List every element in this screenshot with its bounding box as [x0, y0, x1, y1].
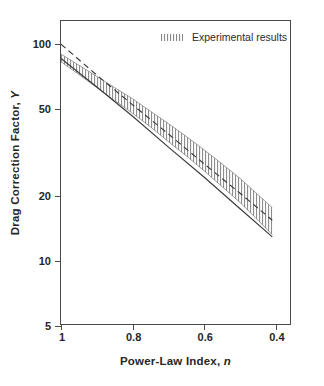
legend-swatch-hatched-icon [161, 34, 183, 41]
legend: Experimental results [161, 31, 287, 43]
y-tick-100: 100 [55, 44, 61, 45]
theory-solid-line [61, 58, 272, 236]
x-axis-title: Power-Law Index, n [60, 355, 291, 367]
x-tick-0.4: 0.4 [276, 324, 277, 330]
y-axis-title-symbol: Y [9, 90, 21, 98]
y-tick-label-20: 20 [39, 190, 51, 202]
y-tick-10: 10 [55, 261, 61, 262]
plot-canvas [61, 21, 292, 326]
x-tick-label-1: 1 [59, 331, 65, 343]
plot-area: Experimental results 1005020105 10.80.60… [60, 20, 291, 325]
y-tick-label-5: 5 [45, 320, 51, 332]
y-tick-20: 20 [55, 196, 61, 197]
x-tick-label-0.8: 0.8 [126, 331, 141, 343]
x-tick-label-0.4: 0.4 [269, 331, 284, 343]
experimental-band [61, 54, 272, 235]
x-axis-title-symbol: n [224, 355, 231, 367]
x-tick-0.8: 0.8 [133, 324, 134, 330]
y-axis-title-main: Drag Correction Factor, [9, 102, 21, 235]
x-tick-1: 1 [61, 324, 62, 330]
x-axis-title-main: Power-Law Index, [120, 355, 220, 367]
x-tick-label-0.6: 0.6 [198, 331, 213, 343]
y-tick-label-10: 10 [39, 255, 51, 267]
y-tick-label-50: 50 [39, 103, 51, 115]
chart-figure: Drag Correction Factor, Y [0, 0, 324, 386]
y-tick-50: 50 [55, 109, 61, 110]
y-tick-label-100: 100 [33, 38, 51, 50]
y-axis-title: Drag Correction Factor, Y [0, 0, 30, 325]
x-tick-0.6: 0.6 [204, 324, 205, 330]
legend-label-experimental: Experimental results [192, 31, 287, 43]
